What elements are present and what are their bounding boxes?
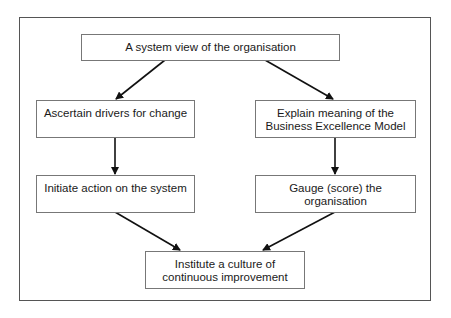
node-label-line1: Gauge (score) the xyxy=(256,182,415,195)
node-initiate-action: Initiate action on the system xyxy=(36,175,195,213)
arrow-top-to-left1 xyxy=(116,60,165,99)
node-label: Ascertain drivers for change xyxy=(44,107,187,119)
node-continuous-improvement: Institute a culture of continuous improv… xyxy=(145,251,305,289)
arrow-right2-to-bottom xyxy=(263,212,335,250)
node-label: Initiate action on the system xyxy=(44,182,187,194)
node-label-line1: Institute a culture of xyxy=(146,258,304,271)
node-label-line2: continuous improvement xyxy=(146,271,304,284)
node-label-line2: organisation xyxy=(256,195,415,208)
node-system-view: A system view of the organisation xyxy=(81,34,340,61)
node-label-line2: Business Excellence Model xyxy=(256,120,415,133)
node-label-line1: Explain meaning of the xyxy=(256,107,415,120)
arrow-left2-to-bottom xyxy=(115,212,180,250)
node-label: A system view of the organisation xyxy=(125,41,296,53)
arrow-top-to-right1 xyxy=(265,60,333,99)
node-explain-bem: Explain meaning of the Business Excellen… xyxy=(255,100,416,138)
node-gauge-organisation: Gauge (score) the organisation xyxy=(255,175,416,213)
node-ascertain-drivers: Ascertain drivers for change xyxy=(36,100,195,138)
